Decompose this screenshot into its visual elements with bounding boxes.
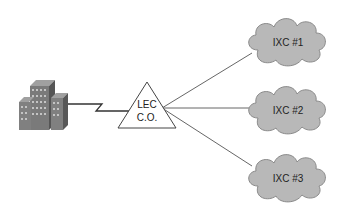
co-label: C.O. — [137, 112, 158, 123]
lec-label: LEC — [137, 99, 156, 110]
ixc-cloud-2: IXC #2 — [249, 87, 326, 134]
trunk-lines — [162, 53, 252, 166]
ixc-1-label: IXC #1 — [273, 37, 304, 48]
ixc-cloud-3: IXC #3 — [249, 155, 326, 202]
ixc-3-label: IXC #3 — [273, 173, 304, 184]
serial-link-line — [68, 104, 129, 111]
building-icon — [19, 80, 68, 130]
ixc-2-label: IXC #2 — [273, 105, 304, 116]
network-diagram: LEC C.O. IXC #1 IXC #2 IXC #3 — [0, 0, 338, 216]
ixc-cloud-1: IXC #1 — [249, 19, 326, 66]
